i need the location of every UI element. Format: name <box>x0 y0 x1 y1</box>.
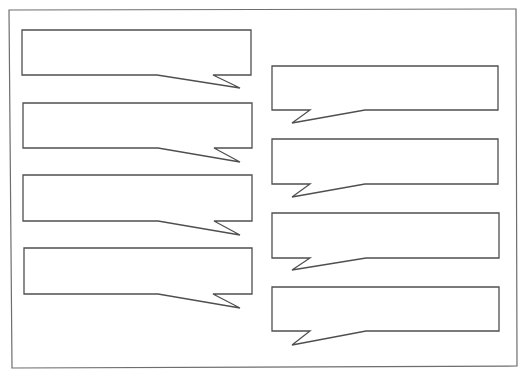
speech-bubble-left-4 <box>24 248 252 308</box>
speech-bubble-right-4 <box>272 287 499 345</box>
speech-bubble-left-1 <box>22 30 251 88</box>
speech-bubble-left-2 <box>23 103 252 162</box>
speech-bubble-right-3 <box>272 213 499 270</box>
speech-bubble-left-3 <box>23 175 252 235</box>
speech-bubble-right-2 <box>272 139 498 197</box>
speech-bubble-sheet <box>0 0 526 375</box>
speech-bubble-right-1 <box>272 66 498 123</box>
